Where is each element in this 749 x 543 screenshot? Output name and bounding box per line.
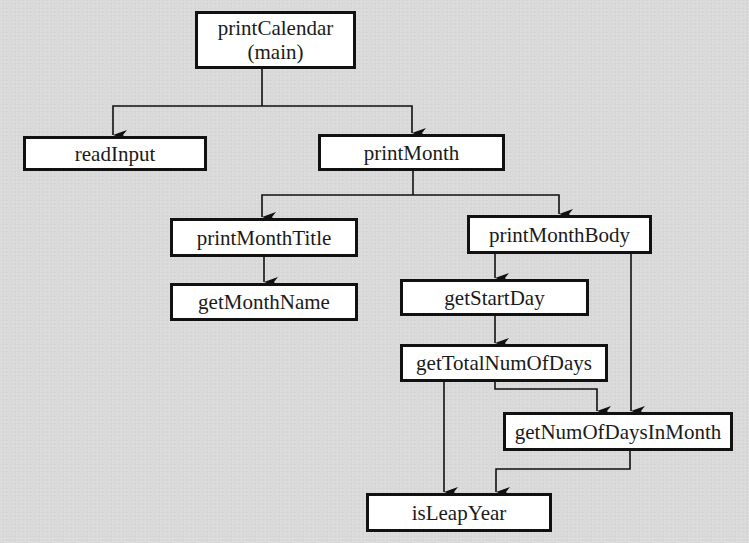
node-readInput[interactable]: readInput [23, 136, 207, 171]
node-getTotalNumOfDays[interactable]: getTotalNumOfDays [400, 344, 608, 382]
node-getNumOfDaysInMonth[interactable]: getNumOfDaysInMonth [503, 412, 733, 451]
edge-getTotalNumOfDays-getNumOfDaysInMonth [495, 381, 597, 411]
node-getMonthName[interactable]: getMonthName [170, 283, 358, 321]
edge-printCalendar-printMonth [262, 106, 412, 133]
edges-layer [0, 0, 749, 543]
node-printMonthTitle[interactable]: printMonthTitle [170, 218, 358, 257]
node-getStartDay[interactable]: getStartDay [400, 279, 589, 316]
node-printMonthBody[interactable]: printMonthBody [467, 215, 652, 254]
node-printMonth[interactable]: printMonth [318, 134, 505, 171]
node-isLeapYear[interactable]: isLeapYear [366, 493, 552, 532]
edge-printMonth-printMonthTitle [262, 195, 413, 217]
edge-getNumOfDaysInMonth-isLeapYear [496, 450, 630, 492]
node-printCalendar[interactable]: printCalendar (main) [195, 11, 356, 69]
edge-printMonth-printMonthBody [413, 195, 559, 214]
edge-printCalendar-readInput [113, 106, 262, 135]
